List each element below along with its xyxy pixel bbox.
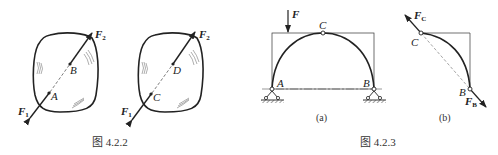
force-label-f1-right: F1 bbox=[120, 105, 132, 119]
caption-fig-4-2-2: 图 4.2.2 bbox=[92, 136, 128, 148]
panel-label-a: (a) bbox=[316, 112, 327, 124]
figure-canvas: A B F1 F2 C D F1 F2 图 4.2.2 bbox=[0, 0, 498, 155]
label-c: C bbox=[153, 91, 161, 103]
hinge-c-b bbox=[419, 31, 423, 35]
label-c-arch: C bbox=[319, 19, 327, 31]
rigid-body-right bbox=[132, 32, 203, 120]
force-label-fb: FB bbox=[464, 95, 477, 109]
arch-half-free-body bbox=[405, 15, 486, 107]
support-b bbox=[363, 87, 386, 103]
hinge-b-b bbox=[468, 87, 472, 91]
label-a: A bbox=[50, 90, 58, 102]
rigid-body-left bbox=[30, 33, 98, 118]
caption-fig-4-2-3: 图 4.2.3 bbox=[360, 136, 396, 148]
shading-marks bbox=[37, 50, 94, 108]
hinge-c bbox=[321, 31, 325, 35]
force-label-f1-left: F1 bbox=[17, 105, 29, 119]
label-c-b: C bbox=[411, 36, 419, 48]
panel-label-b: (b) bbox=[439, 112, 451, 124]
force-label-fc: FC bbox=[413, 9, 426, 23]
label-b-support: B bbox=[363, 77, 370, 89]
label-a-support: A bbox=[276, 77, 284, 89]
load-label-f: F bbox=[291, 8, 300, 20]
support-a bbox=[261, 87, 284, 103]
label-d: D bbox=[172, 64, 181, 76]
label-b: B bbox=[70, 64, 77, 76]
shading-marks bbox=[142, 50, 199, 108]
force-label-f2-left: F2 bbox=[94, 28, 106, 42]
force-label-f2-right: F2 bbox=[198, 28, 210, 42]
